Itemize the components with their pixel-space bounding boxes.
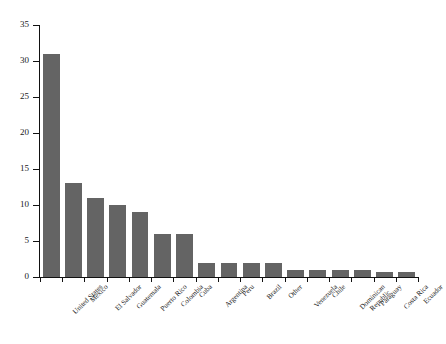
x-axis-category-label: Mexico — [88, 283, 109, 304]
x-axis-tick — [374, 277, 375, 282]
x-axis-tick — [173, 277, 174, 282]
bar-slot — [84, 25, 106, 277]
x-axis-tick — [218, 277, 219, 282]
y-axis-tick-label: 20 — [20, 126, 29, 139]
y-axis-tick-label: 5 — [25, 234, 30, 247]
bar[interactable] — [43, 54, 60, 277]
bar-slot — [173, 25, 195, 277]
y-axis-tick: 0 — [33, 277, 39, 278]
bar-slot — [396, 25, 418, 277]
x-axis-labels: United StatesMexicoEl SalvadorGuatemalaP… — [40, 283, 418, 344]
bar[interactable] — [132, 212, 149, 277]
x-axis-category-label: Brazil — [265, 283, 283, 301]
x-axis-category-label: Other — [287, 283, 305, 301]
x-axis-tick — [151, 277, 152, 282]
x-axis-line — [39, 277, 419, 278]
bar-slot — [307, 25, 329, 277]
bar-slot — [329, 25, 351, 277]
bar[interactable] — [265, 263, 282, 277]
y-axis-tick-label: 0 — [25, 270, 30, 283]
bar-slot — [40, 25, 62, 277]
x-axis-tick — [396, 277, 397, 282]
bar-slot — [240, 25, 262, 277]
bar[interactable] — [332, 270, 349, 277]
bar[interactable] — [198, 263, 215, 277]
bar-slot — [262, 25, 284, 277]
bar-slot — [196, 25, 218, 277]
bar-chart-figure: 05101520253035 United StatesMexicoEl Sal… — [0, 0, 446, 344]
y-axis-tick: 15 — [33, 169, 39, 170]
bar-slot — [351, 25, 373, 277]
x-axis-tick — [40, 277, 41, 282]
bar[interactable] — [376, 272, 393, 277]
bar[interactable] — [243, 263, 260, 277]
bar[interactable] — [221, 263, 238, 277]
x-axis-category-label-line: Brazil — [265, 283, 283, 301]
y-axis-tick-label: 25 — [20, 90, 29, 103]
x-axis-tick — [351, 277, 352, 282]
x-axis-tick — [129, 277, 130, 282]
bar-slot — [285, 25, 307, 277]
y-axis-tick: 35 — [33, 25, 39, 26]
y-axis-tick: 10 — [33, 205, 39, 206]
x-axis-tick — [240, 277, 241, 282]
y-axis-tick: 20 — [33, 133, 39, 134]
x-axis-tick — [262, 277, 263, 282]
y-axis-tick-label: 10 — [20, 198, 29, 211]
y-axis-tick-label: 15 — [20, 162, 29, 175]
bar-slot — [62, 25, 84, 277]
x-axis-category-label-line: Other — [287, 283, 304, 300]
bar[interactable] — [154, 234, 171, 277]
bar-slot — [374, 25, 396, 277]
bar-slot — [107, 25, 129, 277]
x-axis-tick — [329, 277, 330, 282]
y-axis-tick-label: 35 — [20, 18, 29, 31]
bar-slot — [218, 25, 240, 277]
x-axis-tick — [196, 277, 197, 282]
y-axis-tick: 30 — [33, 61, 39, 62]
bar-slot — [151, 25, 173, 277]
x-axis-tick — [62, 277, 63, 282]
bar[interactable] — [354, 270, 371, 277]
bar[interactable] — [176, 234, 193, 277]
bar[interactable] — [87, 198, 104, 277]
x-axis-tick — [285, 277, 286, 282]
x-axis-tick — [107, 277, 108, 282]
bar[interactable] — [398, 272, 415, 277]
bar[interactable] — [65, 183, 82, 277]
bar-slot — [129, 25, 151, 277]
bar[interactable] — [309, 270, 326, 277]
bars-layer — [40, 25, 418, 277]
x-axis-tick — [418, 277, 419, 282]
x-axis-tick — [84, 277, 85, 282]
x-axis-tick — [307, 277, 308, 282]
bar[interactable] — [287, 270, 304, 277]
x-axis-category-label-line: Mexico — [88, 283, 109, 304]
bar[interactable] — [109, 205, 126, 277]
y-axis-tick-label: 30 — [20, 54, 29, 67]
y-axis-tick: 25 — [33, 97, 39, 98]
y-axis-tick: 5 — [33, 241, 39, 242]
